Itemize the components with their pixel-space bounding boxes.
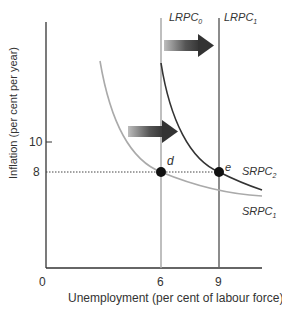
y-tick-label-10: 10 [29,135,42,149]
x-tick-label-6: 6 [157,275,164,289]
y-tick-label-8: 8 [33,165,40,179]
x-tick-label-9: 9 [215,275,222,289]
srpc1-label: SRPC1 [242,205,276,219]
point-e-label: e [225,161,231,173]
lrpc0-label: LRPC0 [169,11,202,25]
srpc2-label: SRPC2 [242,165,276,179]
lrpc1-label: LRPC1 [224,11,257,25]
x-axis-label: Unemployment (per cent of labour force) [68,291,282,305]
y-axis-label: Inflation (per cent per year) [7,28,19,198]
origin-label: 0 [39,275,46,289]
point-d-label: d [167,154,174,168]
